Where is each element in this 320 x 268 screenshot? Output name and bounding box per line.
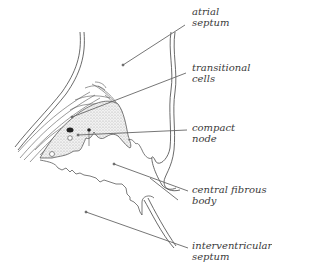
label-central-fibrous-body: central fibrous body [192, 184, 267, 206]
leader-transitional-cells [72, 73, 186, 117]
label-interventricular-septum: interventricular septum [192, 240, 272, 262]
label-atrial-septum: atrial septum [192, 6, 229, 28]
interventricular-septum-wall [144, 198, 176, 248]
central-fibrous-body-border [40, 160, 154, 215]
node-edge [128, 139, 152, 158]
leader-atrial-septum [123, 25, 185, 65]
label-transitional-cells: transitional cells [192, 62, 250, 84]
label-compact-node: compact node [192, 122, 235, 144]
compact-node-region [40, 101, 131, 158]
leader-interventricular-septum [86, 212, 188, 248]
atrial-septum-wall [152, 32, 180, 191]
